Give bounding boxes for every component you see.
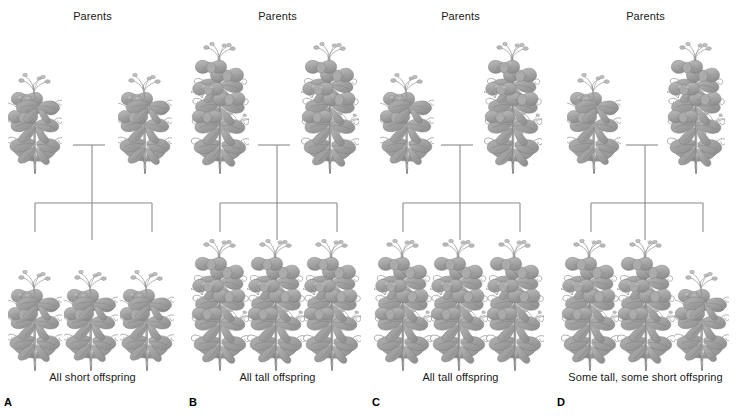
parents-label: Parents: [368, 10, 553, 22]
parents-label: Parents: [185, 10, 370, 22]
parents-label: Parents: [0, 10, 185, 22]
offspring-plant-1: [191, 235, 249, 372]
parent-plant-right: [118, 69, 172, 175]
offspring-row: [0, 236, 185, 372]
parent-row: [185, 30, 370, 175]
panel-letter: C: [372, 396, 380, 408]
parent-plant-right: [667, 38, 725, 175]
panel-letter: A: [4, 396, 12, 408]
offspring-plant-2: [617, 235, 675, 372]
offspring-plant-1: [374, 235, 432, 372]
parent-row: [0, 30, 185, 175]
parent-plant-right: [301, 38, 359, 175]
panel-c: Parents: [368, 0, 553, 418]
offspring-plant-3: [120, 266, 174, 372]
offspring-label: All tall offspring: [185, 371, 370, 383]
offspring-label: Some tall, some short offspring: [553, 371, 738, 383]
parent-plant-left: [567, 69, 621, 175]
parent-row: [368, 30, 553, 175]
parent-plant-right: [484, 38, 542, 175]
panel-letter: D: [557, 396, 565, 408]
parent-plant-left: [8, 69, 62, 175]
offspring-label: All tall offspring: [368, 371, 553, 383]
panel-letter: B: [189, 396, 197, 408]
parent-row: [553, 30, 738, 175]
panel-b: Parents: [185, 0, 370, 418]
offspring-plant-2: [64, 266, 118, 372]
offspring-plant-1: [8, 266, 62, 372]
offspring-plant-3: [675, 266, 729, 372]
offspring-row: [185, 236, 370, 372]
panel-d: Parents: [553, 0, 738, 418]
offspring-label: All short offspring: [0, 371, 185, 383]
offspring-plant-1: [561, 235, 619, 372]
offspring-row: [368, 236, 553, 372]
parent-plant-left: [380, 69, 434, 175]
panel-a: Parents: [0, 0, 185, 418]
parents-label: Parents: [553, 10, 738, 22]
parent-plant-left: [191, 38, 249, 175]
offspring-plant-2: [247, 235, 305, 372]
pea-plant-cross-figure: Parents: [0, 0, 738, 418]
offspring-plant-2: [430, 235, 488, 372]
offspring-plant-3: [486, 235, 544, 372]
offspring-row: [553, 236, 738, 372]
offspring-plant-3: [303, 235, 361, 372]
